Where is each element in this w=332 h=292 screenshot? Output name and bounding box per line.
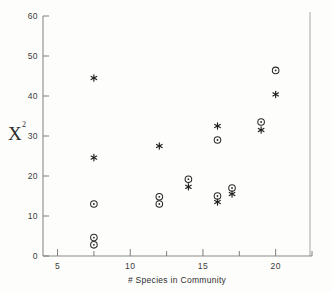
y-axis-ticks xyxy=(43,16,49,256)
x-tick-label: 20 xyxy=(271,261,281,271)
data-point-star xyxy=(273,91,279,97)
data-point-circle xyxy=(258,119,265,126)
y-axis-tick-labels: 0102030405060 xyxy=(28,11,38,261)
data-point-circle xyxy=(156,194,163,201)
data-point-star xyxy=(215,123,221,129)
data-point-circle xyxy=(272,67,279,74)
x-tick-label: 10 xyxy=(125,261,135,271)
chart-canvas: 0102030405060 5101520 X 2 # Species in C… xyxy=(0,0,332,292)
chart-axes xyxy=(43,16,312,256)
y-axis-title-chi: X xyxy=(8,123,22,144)
x-axis-title: # Species in Community xyxy=(128,275,227,285)
data-point-star xyxy=(229,191,235,197)
y-tick-label: 30 xyxy=(28,131,38,141)
y-tick-label: 10 xyxy=(28,211,38,221)
y-axis-title-exponent: 2 xyxy=(22,120,26,129)
data-point-star xyxy=(91,154,97,160)
data-point-circle xyxy=(91,201,98,208)
y-tick-label: 50 xyxy=(28,51,38,61)
y-tick-label: 20 xyxy=(28,171,38,181)
scatter-plot-figure: 0102030405060 5101520 X 2 # Species in C… xyxy=(0,0,332,292)
x-axis-tick-labels: 5101520 xyxy=(55,261,281,271)
y-tick-label: 0 xyxy=(33,251,38,261)
data-point-circle xyxy=(214,137,221,144)
series-star-markers xyxy=(91,75,278,205)
y-tick-label: 40 xyxy=(28,91,38,101)
data-point-circle xyxy=(185,176,192,183)
data-point-star xyxy=(157,143,163,149)
y-axis-title: X 2 xyxy=(8,120,26,144)
y-tick-label: 60 xyxy=(28,11,38,21)
data-point-circle xyxy=(91,234,98,241)
data-point-circle xyxy=(156,201,163,208)
series-circle-markers xyxy=(91,67,279,248)
data-point-star xyxy=(258,127,264,133)
data-point-circle xyxy=(91,242,98,249)
data-point-star xyxy=(91,75,97,81)
data-point-star xyxy=(215,199,221,205)
x-tick-label: 15 xyxy=(198,261,208,271)
x-axis-ticks xyxy=(58,249,312,256)
x-tick-label: 5 xyxy=(55,261,60,271)
data-point-star xyxy=(186,184,192,190)
